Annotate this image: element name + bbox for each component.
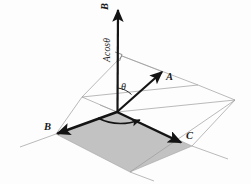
vector-a	[117, 72, 162, 112]
label-vector-b: B	[44, 122, 51, 133]
label-b-cross-c: B × C	[100, 0, 111, 10]
label-vector-a: A	[166, 72, 173, 83]
label-angle-theta: θ	[121, 82, 126, 92]
origin-point	[116, 111, 118, 113]
label-a-cos-theta: Acosθ	[103, 38, 113, 62]
projection-helper-lines	[122, 56, 163, 72]
vector-b-cross-c	[118, 10, 119, 112]
figure-canvas	[0, 0, 251, 184]
label-vector-c: C	[186, 131, 193, 142]
shaded-parallelogram	[56, 112, 192, 172]
vector-triple-product-figure: B × C Acosθ A B C θ	[0, 0, 251, 184]
